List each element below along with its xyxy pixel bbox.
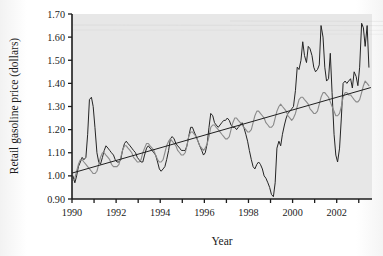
x-axis-tick-labels: 1990199219941996199820002002: [62, 207, 347, 218]
x-tick-label: 1990: [62, 207, 82, 218]
x-tick-label: 1998: [238, 207, 258, 218]
y-tick-label: 1.70: [47, 9, 65, 20]
y-tick-label: 1.60: [47, 32, 65, 43]
gasoline-price-line-chart: 0.901.001.101.201.301.401.501.601.70 199…: [0, 0, 383, 256]
y-axis-tick-labels: 0.901.001.101.201.301.401.501.601.70: [47, 9, 65, 205]
x-tick-label: 2002: [327, 207, 347, 218]
y-tick-label: 1.00: [47, 170, 65, 181]
y-tick-label: 1.10: [47, 147, 65, 158]
figure-container: 0.901.001.101.201.301.401.501.601.70 199…: [0, 0, 383, 256]
plot-background: [72, 14, 372, 199]
x-tick-label: 2000: [282, 207, 302, 218]
x-tick-label: 1992: [106, 207, 126, 218]
x-tick-label: 1996: [194, 207, 214, 218]
y-tick-label: 1.20: [47, 124, 65, 135]
y-tick-label: 1.30: [47, 101, 65, 112]
chart-plot: 0.901.001.101.201.301.401.501.601.70 199…: [0, 0, 383, 256]
y-tick-label: 0.90: [47, 194, 65, 205]
y-axis-title: Retail gasoline price (dollars): [8, 38, 21, 175]
y-tick-label: 1.50: [47, 55, 65, 66]
x-tick-label: 1994: [150, 207, 170, 218]
x-axis-title: Year: [211, 235, 232, 247]
y-tick-label: 1.40: [47, 78, 65, 89]
